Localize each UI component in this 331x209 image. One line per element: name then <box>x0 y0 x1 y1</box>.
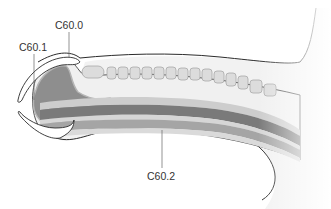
label-c60-2: C60.2 <box>147 171 175 182</box>
label-c60-0: C60.0 <box>55 20 83 31</box>
label-c60-1: C60.1 <box>19 42 47 53</box>
